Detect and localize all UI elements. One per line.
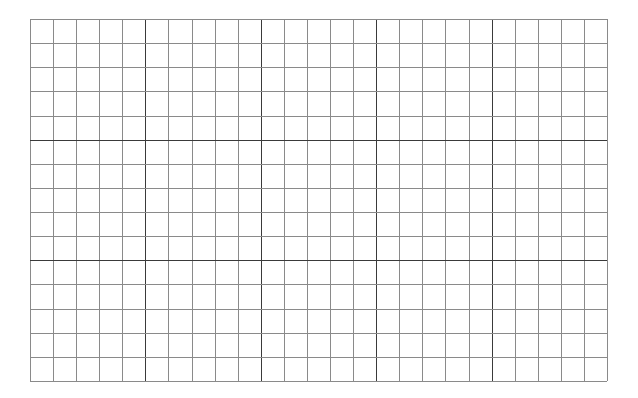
graph-paper-grid	[0, 0, 638, 398]
